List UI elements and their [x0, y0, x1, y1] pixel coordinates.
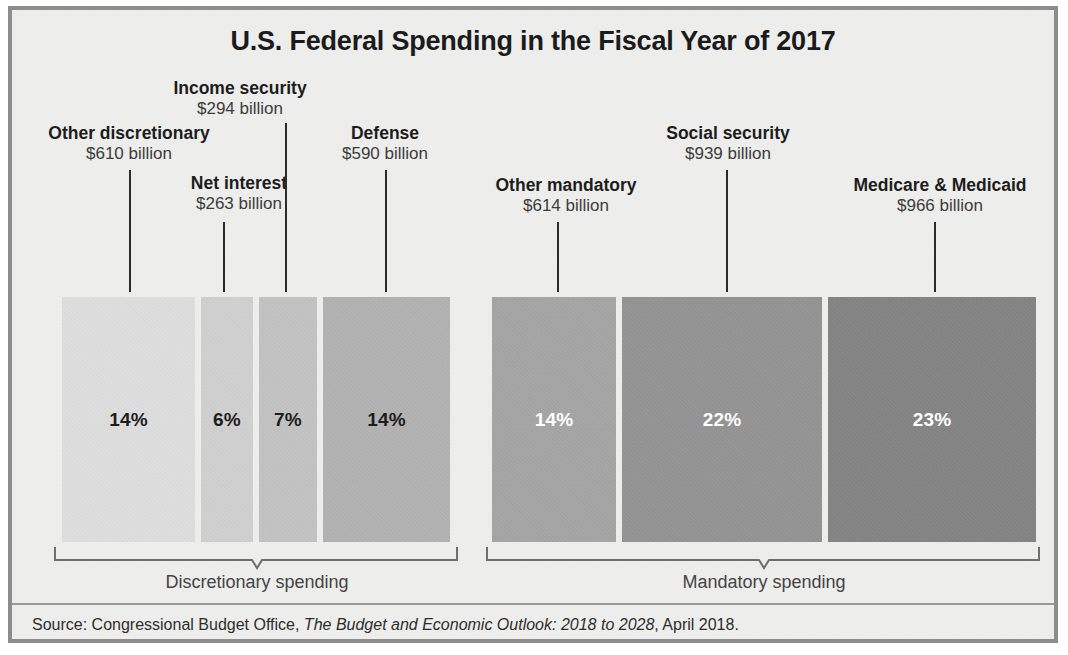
- bar-percent-label: 14%: [535, 409, 574, 431]
- bar-percent-label: 14%: [109, 409, 148, 431]
- chart-frame: U.S. Federal Spending in the Fiscal Year…: [8, 6, 1058, 643]
- source-prefix: Source: Congressional Budget Office,: [32, 616, 304, 633]
- source-note: Source: Congressional Budget Office, The…: [32, 616, 739, 634]
- bar-percent-label: 22%: [703, 409, 742, 431]
- bar-percent-label: 14%: [367, 409, 406, 431]
- source-divider: [12, 603, 1054, 605]
- bar-medicare-medicaid[interactable]: 23%: [828, 297, 1036, 542]
- bar-defense[interactable]: 14%: [323, 297, 450, 542]
- source-suffix: , April 2018.: [654, 616, 739, 633]
- source-publication-title: The Budget and Economic Outlook: 2018 to…: [304, 616, 654, 633]
- bar-percent-label: 23%: [913, 409, 952, 431]
- bar-income-security[interactable]: 7%: [259, 297, 317, 542]
- bar-percent-label: 6%: [213, 409, 241, 431]
- bracket-mandatory: [484, 544, 1044, 570]
- bar-percent-label: 7%: [274, 409, 302, 431]
- bracket-label-mandatory: Mandatory spending: [484, 572, 1044, 593]
- bracket-label-discretionary: Discretionary spending: [52, 572, 462, 593]
- bar-social-security[interactable]: 22%: [622, 297, 822, 542]
- bar-net-interest[interactable]: 6%: [201, 297, 253, 542]
- bracket-discretionary: [52, 544, 462, 570]
- bar-other-discretionary[interactable]: 14%: [62, 297, 195, 542]
- bar-other-mandatory[interactable]: 14%: [492, 297, 616, 542]
- chart-figure: U.S. Federal Spending in the Fiscal Year…: [0, 0, 1068, 655]
